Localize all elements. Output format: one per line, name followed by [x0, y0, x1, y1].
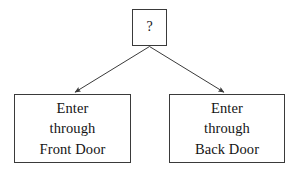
edge-root-to-front-door — [75, 47, 150, 93]
diagram-canvas: ? Enter through Front Door Enter through… — [0, 0, 297, 169]
node-root-question: ? — [132, 9, 167, 46]
node-back-door: Enter through Back Door — [169, 94, 285, 163]
node-front-door-line-3: Front Door — [40, 139, 106, 160]
node-front-door: Enter through Front Door — [14, 94, 131, 163]
edge-root-to-back-door — [150, 47, 225, 93]
node-front-door-line-2: through — [50, 118, 96, 139]
question-mark-icon: ? — [146, 20, 152, 35]
node-back-door-line-2: through — [204, 118, 250, 139]
node-front-door-line-1: Enter — [57, 98, 89, 119]
node-back-door-line-3: Back Door — [195, 139, 259, 160]
node-back-door-line-1: Enter — [211, 98, 243, 119]
